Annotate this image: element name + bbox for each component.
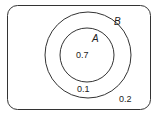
set-b-label: B <box>114 16 121 27</box>
set-b-only-value: 0.1 <box>77 84 90 94</box>
venn-diagram: B A 0.7 0.1 0.2 <box>0 0 154 114</box>
set-a-label: A <box>91 33 99 44</box>
set-a-value: 0.7 <box>76 50 89 60</box>
universe-value: 0.2 <box>119 94 132 104</box>
